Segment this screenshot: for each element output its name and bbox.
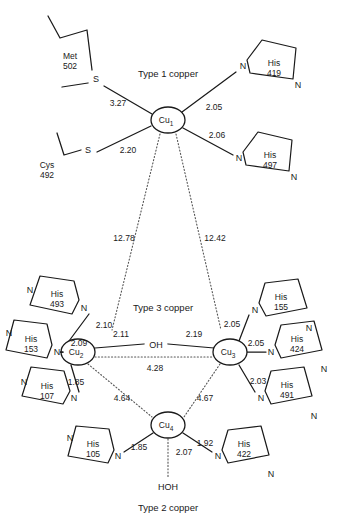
met502-methyl (62, 83, 88, 87)
his497-label-type: His (264, 150, 276, 160)
bond-oh-cu3 (168, 344, 214, 348)
his424-label-type: His (291, 334, 303, 344)
his155-label-type: His (275, 292, 287, 302)
cu3-node: Cu3 (213, 339, 247, 365)
dist-cu3-his491: 2.03 (250, 376, 267, 386)
his497-n-far: N (291, 172, 298, 182)
dist-cu3-his155: 2.05 (224, 319, 241, 329)
his491-label-number: 491 (280, 390, 294, 400)
dist-cu3-oh: 2.19 (186, 329, 203, 339)
his491-n-far: N (311, 411, 318, 421)
his424-label-number: 424 (290, 344, 304, 354)
his105-label-type: His (87, 439, 99, 449)
his419-label-number: 419 (267, 68, 281, 78)
dist-cu2-his493: 2.10 (96, 320, 113, 330)
his491-group: N N His 491 (258, 367, 318, 421)
his155-label-number: 155 (274, 302, 288, 312)
met502-label-type: Met (63, 51, 78, 61)
his419-n-far: N (295, 80, 302, 90)
his497-label-number: 497 (263, 160, 277, 170)
his107-label-number: 107 (40, 391, 54, 401)
his153-label-number: 153 (24, 344, 38, 354)
dist-cu1-cu3: 12.42 (204, 233, 226, 243)
dotted-cu2-cu4 (88, 364, 152, 417)
bridging-hydroxide-label: OH (149, 340, 163, 350)
his422-group: N N His 422 (215, 426, 275, 479)
his497-n-coord: N (236, 153, 243, 163)
dist-cu2-his107: 1.85 (68, 377, 85, 387)
his155-n-coord: N (252, 305, 259, 315)
dist-cu3-his424: 2.05 (248, 338, 265, 348)
multicopper-oxidase-active-site-diagram: S Met 502 S Cys 492 N N His 419 N N His … (0, 0, 340, 530)
cu1-node: Cu1 (151, 107, 185, 133)
his107-n-far: N (21, 377, 28, 387)
his105-n-coord: N (115, 451, 122, 461)
his105-label-number: 105 (86, 449, 100, 459)
cys492-label-type: Cys (40, 160, 55, 170)
dist-cu1-cu2: 12.78 (113, 233, 135, 243)
his493-group: N N His 493 (27, 276, 88, 314)
axial-water-label: HOH (158, 482, 178, 492)
his422-n-far: N (268, 469, 275, 479)
his424-n-coord: N (268, 347, 275, 357)
dist-cu1-cys492: 2.20 (120, 145, 137, 155)
his493-n-far: N (27, 285, 34, 295)
dist-cu2-cu4: 4.64 (114, 393, 131, 403)
cys492-chain (57, 133, 81, 155)
type3-copper-label: Type 3 copper (133, 302, 193, 313)
his155-n-far: N (306, 323, 313, 333)
cys492-sulfur: S (85, 145, 91, 155)
his153-n-coord: N (54, 347, 61, 357)
his153-n-far: N (6, 328, 13, 338)
his491-label-type: His (281, 380, 293, 390)
cys492-label-number: 492 (40, 170, 54, 180)
his491-n-coord: N (258, 393, 265, 403)
his419-n-coord: N (240, 61, 247, 71)
his493-n-coord: N (81, 303, 88, 313)
dist-cu1-met502: 3.27 (110, 98, 127, 108)
his153-group: N N His 153 (6, 320, 61, 358)
his107-n-coord: N (71, 393, 78, 403)
met502-group: S Met 502 (48, 16, 99, 87)
his493-label-type: His (51, 289, 63, 299)
cu4-node: Cu4 (151, 412, 185, 438)
dist-cu2-his153: 2.09 (71, 338, 88, 348)
dotted-cu1-cu3 (176, 134, 221, 330)
his424-n-far: N (321, 364, 328, 374)
dist-cu4-his105: 1.85 (131, 442, 148, 452)
dist-cu3-cu4: 4.67 (197, 393, 214, 403)
his105-n-far: N (67, 433, 74, 443)
his105-group: N N His 105 (67, 426, 122, 463)
his419-group: N N His 419 (240, 40, 302, 90)
his497-group: N N His 497 (236, 132, 298, 182)
type1-copper-label: Type 1 copper (138, 68, 198, 79)
his107-label-type: His (41, 381, 53, 391)
intercopper-long-distances (112, 134, 221, 330)
dist-cu1-his419: 2.05 (206, 102, 223, 112)
dist-cu2-cu3: 4.28 (147, 363, 164, 373)
met502-sulfur: S (93, 74, 99, 84)
his422-label-type: His (238, 439, 250, 449)
dotted-cu1-cu2 (112, 134, 160, 330)
cys492-group: S Cys 492 (40, 133, 91, 180)
his424-group: N N His 424 (268, 321, 328, 374)
his422-label-number: 422 (237, 449, 251, 459)
dist-cu4-his422: 1.92 (197, 438, 214, 448)
dotted-cu3-cu4 (184, 364, 220, 417)
his422-n-coord: N (215, 451, 222, 461)
dist-cu4-hoh: 2.07 (176, 447, 193, 457)
his153-label-type: His (25, 334, 37, 344)
type2-copper-label: Type 2 copper (138, 502, 198, 513)
dist-cu2-oh: 2.11 (113, 329, 129, 339)
met502-label-number: 502 (63, 61, 77, 71)
bond-his493-cu2 (69, 314, 89, 341)
his493-label-number: 493 (50, 299, 64, 309)
dist-cu1-his497: 2.06 (209, 130, 226, 140)
bond-cu2-oh (95, 344, 144, 348)
his419-label-type: His (268, 58, 280, 68)
hydroxide-bridge: OH (95, 340, 214, 357)
